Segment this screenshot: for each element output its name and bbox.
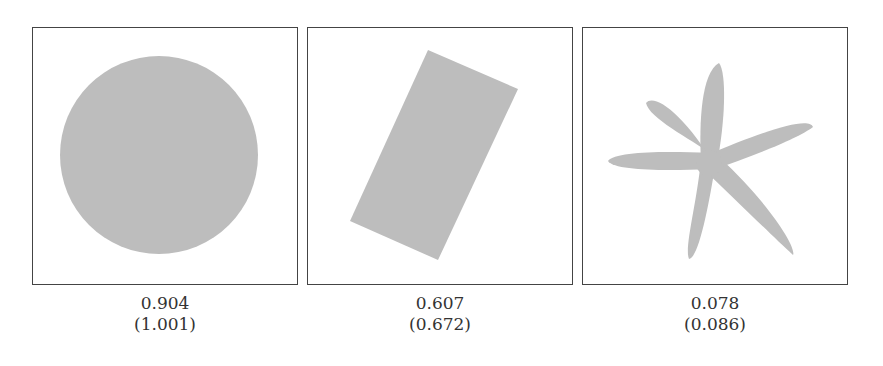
star-shape: [583, 28, 849, 286]
measure-value: 0.607: [307, 293, 573, 314]
measure-value-paren: (1.001): [32, 314, 298, 335]
caption-circle: 0.904 (1.001): [32, 293, 298, 335]
caption-rectangle: 0.607 (0.672): [307, 293, 573, 335]
measure-value-paren: (0.086): [582, 314, 848, 335]
measure-value: 0.078: [582, 293, 848, 314]
measure-value: 0.904: [32, 293, 298, 314]
panel-star: [582, 27, 848, 285]
rectangle-shape: [308, 28, 574, 286]
caption-star: 0.078 (0.086): [582, 293, 848, 335]
panel-rectangle: [307, 27, 573, 285]
measure-value-paren: (0.672): [307, 314, 573, 335]
circle-shape: [33, 28, 299, 286]
panel-circle: [32, 27, 298, 285]
